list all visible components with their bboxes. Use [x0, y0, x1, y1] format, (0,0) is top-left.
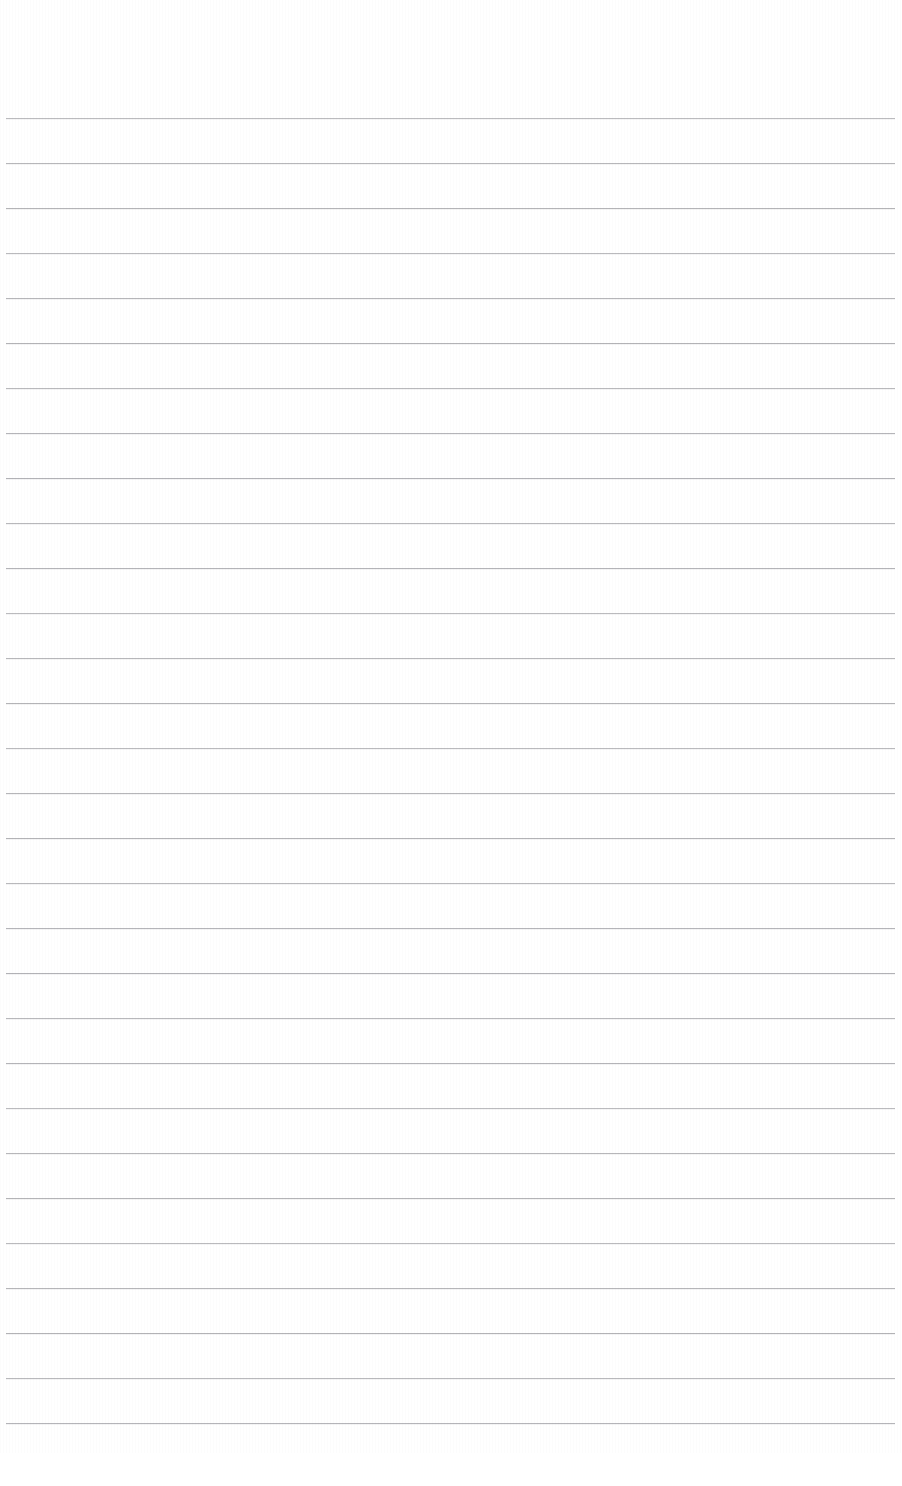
writing-row[interactable]: [6, 1334, 895, 1378]
writing-row[interactable]: [6, 119, 895, 163]
writing-row[interactable]: [6, 704, 895, 748]
writing-row[interactable]: [6, 839, 895, 883]
writing-row[interactable]: [6, 1019, 895, 1063]
writing-row[interactable]: [6, 164, 895, 208]
writing-row[interactable]: [6, 209, 895, 253]
writing-row[interactable]: [6, 434, 895, 478]
writing-row[interactable]: [6, 1109, 895, 1153]
writing-row[interactable]: [6, 614, 895, 658]
writing-row[interactable]: [6, 1064, 895, 1108]
writing-row[interactable]: [6, 254, 895, 298]
writing-row[interactable]: [6, 1154, 895, 1198]
writing-row[interactable]: [6, 1244, 895, 1288]
writing-row[interactable]: [6, 749, 895, 793]
bottom-margin-area: [0, 1453, 902, 1486]
writing-row[interactable]: [6, 524, 895, 568]
writing-row[interactable]: [6, 479, 895, 523]
writing-row[interactable]: [6, 974, 895, 1018]
ruled-paper-page: [0, 0, 902, 1486]
writing-row[interactable]: [6, 569, 895, 613]
writing-row[interactable]: [6, 389, 895, 433]
writing-row[interactable]: [6, 1199, 895, 1243]
writing-row[interactable]: [6, 1379, 895, 1423]
writing-row[interactable]: [6, 299, 895, 343]
writing-row[interactable]: [6, 794, 895, 838]
writing-row[interactable]: [6, 884, 895, 928]
writing-row[interactable]: [6, 929, 895, 973]
writing-row[interactable]: [6, 659, 895, 703]
writing-row[interactable]: [6, 344, 895, 388]
writing-row[interactable]: [6, 1289, 895, 1333]
rule-lines-group: [0, 0, 902, 1486]
